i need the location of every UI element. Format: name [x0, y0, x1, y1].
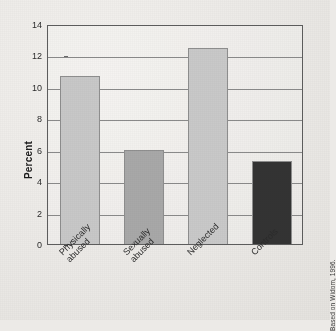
bar	[188, 48, 228, 244]
plot-area	[47, 25, 303, 245]
y-axis-tick-label: 12	[32, 52, 42, 61]
y-axis-tick-label: 4	[37, 178, 42, 187]
y-axis-tick-label: 10	[32, 83, 42, 92]
y-axis-tick-label: 0	[37, 241, 42, 250]
y-axis-tick-labels: 02468101214	[22, 0, 42, 320]
y-axis-tick-label: 6	[37, 146, 42, 155]
gridline	[48, 57, 302, 58]
y-axis-tick-label: 8	[37, 115, 42, 124]
y-axis-tick-label: 14	[32, 21, 42, 30]
source-credit: Based on Widom, 1996.	[329, 259, 336, 330]
y-axis-tick-label: 2	[37, 209, 42, 218]
bar	[60, 76, 100, 244]
